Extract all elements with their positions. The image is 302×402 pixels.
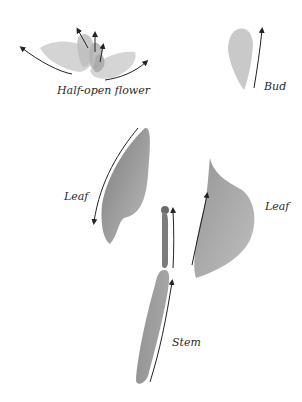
stem-strokes: [136, 270, 172, 384]
label-half-open-flower: Half-open flower: [57, 84, 150, 97]
half-open-flower-strokes: [22, 30, 146, 80]
label-bud: Bud: [264, 80, 286, 93]
bud-strokes: [228, 29, 262, 90]
brush-stroke-diagram: [0, 0, 302, 402]
stem-top-strokes: [161, 206, 174, 268]
label-leaf-left: Leaf: [64, 190, 88, 203]
label-stem: Stem: [172, 336, 201, 349]
label-leaf-right: Leaf: [265, 200, 289, 213]
leaf-left-strokes: [94, 128, 150, 244]
leaf-right-strokes: [192, 158, 254, 278]
